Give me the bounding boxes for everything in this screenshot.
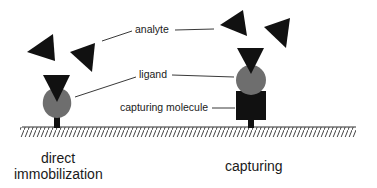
capturing-assembly <box>236 48 266 128</box>
analyte-label: analyte <box>135 24 169 35</box>
analyte-icon <box>264 18 290 48</box>
capturing-molecule-icon <box>236 91 266 120</box>
analyte-icon <box>27 34 55 61</box>
analyte-icon <box>70 43 95 72</box>
analyte-icon <box>220 10 247 36</box>
caption-line-2: immobilization <box>14 166 102 182</box>
ligand-label: ligand <box>139 69 167 80</box>
surface <box>20 127 356 137</box>
capturing-caption: capturing <box>225 158 283 174</box>
direct-immobilization-assembly <box>43 75 71 128</box>
direct-immobilization-caption: direct immobilization <box>14 150 102 182</box>
caption-line-1: direct <box>14 150 102 166</box>
capturing-molecule-label: capturing molecule <box>120 102 208 113</box>
